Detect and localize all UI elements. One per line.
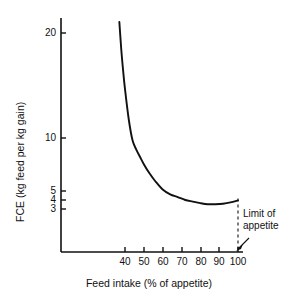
x-tick-label: 100 <box>230 257 247 267</box>
y-tick-label: 3 <box>30 204 56 214</box>
x-tick-label: 90 <box>213 257 224 267</box>
limit-label-line-2: appetite <box>243 220 279 232</box>
limit-of-appetite-label: Limit of appetite <box>243 208 279 231</box>
x-tick-label: 70 <box>176 257 187 267</box>
axes-group <box>61 18 243 252</box>
x-tick-label: 60 <box>157 257 168 267</box>
y-tick-label: 20 <box>30 28 56 38</box>
limit-arrow-head <box>236 244 243 251</box>
y-axis-title: FCE (kg feed per kg gain) <box>14 102 26 222</box>
y-tick-label: 10 <box>30 133 56 143</box>
limit-label-line-1: Limit of <box>243 208 279 220</box>
x-axis-title: Feed intake (% of appetite) <box>0 277 298 289</box>
x-tick-label: 40 <box>119 257 130 267</box>
fce-curve <box>119 22 238 204</box>
x-tick-label: 80 <box>195 257 206 267</box>
x-tick-label: 50 <box>138 257 149 267</box>
chart-figure: 2010543 405060708090100 FCE (kg feed per… <box>0 0 298 301</box>
